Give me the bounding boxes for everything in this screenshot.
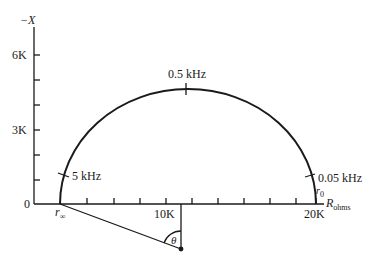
y-ticks [34,55,40,180]
x-tick-20k: 20K [304,208,325,220]
y-axis-label: −X [20,14,35,26]
arc-center-point [179,247,183,251]
theta-label: θ [171,234,176,246]
x-tick-10k: 10K [154,208,175,220]
freq-label-0.05khz: 0.05 kHz [318,172,362,184]
r-infinity-label: r∞ [55,206,65,223]
freq-label-5khz: 5 kHz [72,170,101,182]
freq-mark-0.05khz [305,174,315,177]
r-zero-label: r0 [316,185,324,201]
freq-label-0.5khz: 0.5 kHz [168,68,206,80]
impedance-arc [60,89,316,204]
y-tick-0: 0 [24,198,30,210]
x-axis-label: Rohms [326,197,351,214]
x-ticks [87,198,316,204]
y-tick-3k: 3K [12,124,27,136]
y-tick-6k: 6K [12,49,27,61]
impedance-diagram: −X 6K 3K 0 10K 20K Rohms 5 kHz 0.5 kHz 0… [0,0,387,262]
